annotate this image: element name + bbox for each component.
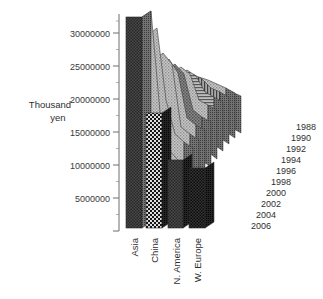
year-label-2006: 2006 bbox=[251, 221, 271, 231]
year-label-1998: 1998 bbox=[271, 177, 291, 187]
year-axis-labels: 1988 1990 1992 1994 1996 1998 2000 2002 … bbox=[251, 122, 316, 231]
chart-svg: 30000000 25000000 20000000 15000000 1000… bbox=[0, 0, 323, 299]
y-tick-label: 5000000 bbox=[75, 194, 110, 204]
front-column-china bbox=[146, 107, 171, 228]
y-axis-title-line1: Thousand bbox=[29, 99, 71, 110]
category-axis-labels: Asia China N. America W. Europe bbox=[129, 237, 203, 284]
chart-figure: 30000000 25000000 20000000 15000000 1000… bbox=[0, 0, 323, 299]
y-tick-label: 30000000 bbox=[70, 29, 110, 39]
front-column-w-europe bbox=[189, 162, 214, 228]
ribbon-surface-3d bbox=[126, 11, 241, 228]
front-column-n-america bbox=[168, 154, 192, 228]
y-axis-title: Thousand yen bbox=[29, 99, 71, 123]
year-label-1992: 1992 bbox=[286, 144, 306, 154]
category-label-n-america: N. America bbox=[171, 237, 182, 284]
y-axis bbox=[113, 14, 119, 231]
y-tick-label: 10000000 bbox=[70, 161, 110, 171]
category-label-w-europe: W. Europe bbox=[192, 238, 203, 282]
year-label-2002: 2002 bbox=[261, 199, 281, 209]
category-label-china: China bbox=[149, 237, 160, 263]
y-tick-label: 25000000 bbox=[70, 62, 110, 72]
year-label-1988: 1988 bbox=[296, 122, 316, 132]
y-axis-title-line2: yen bbox=[50, 112, 65, 123]
year-label-2004: 2004 bbox=[256, 210, 276, 220]
y-tick-labels: 30000000 25000000 20000000 15000000 1000… bbox=[70, 29, 110, 204]
category-label-asia: Asia bbox=[129, 237, 140, 256]
y-tick-label: 20000000 bbox=[70, 95, 110, 105]
year-label-1990: 1990 bbox=[291, 133, 311, 143]
year-label-2000: 2000 bbox=[266, 188, 286, 198]
year-label-1994: 1994 bbox=[281, 155, 301, 165]
year-label-1996: 1996 bbox=[276, 166, 296, 176]
y-tick-label: 15000000 bbox=[70, 128, 110, 138]
